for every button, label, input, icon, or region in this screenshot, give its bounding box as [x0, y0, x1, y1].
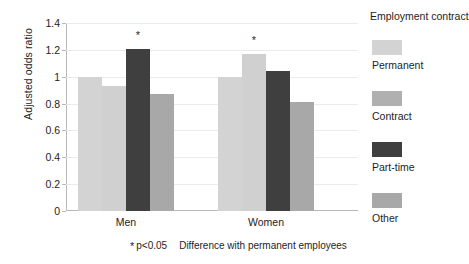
legend-label: Part-time: [372, 161, 469, 173]
bar-men-part-time: [126, 49, 150, 211]
legend-swatch-permanent: [372, 40, 402, 55]
footnote-asterisk-icon: *: [130, 240, 134, 252]
y-axis-line: [66, 23, 67, 211]
bar-women-permanent: [218, 77, 242, 211]
bar-women-other: [290, 102, 314, 211]
y-tick-mark: [62, 77, 66, 78]
gridline: [66, 77, 358, 78]
y-tick-label: 0.2: [30, 178, 60, 190]
legend-item-part-time: Part-time: [372, 142, 469, 173]
bar-men-contract: [102, 86, 126, 211]
footnote-p-value: p<0.05: [136, 240, 167, 251]
y-tick-mark: [62, 23, 66, 24]
y-tick-mark: [62, 157, 66, 158]
y-tick-label: 1: [30, 71, 60, 83]
y-tick-label: 0.6: [30, 124, 60, 136]
y-tick-mark: [62, 130, 66, 131]
x-axis-label-women: Women: [248, 216, 284, 228]
y-tick-label: 1.2: [30, 44, 60, 56]
footnote: *p<0.05Difference with permanent employe…: [130, 240, 347, 252]
legend-swatch-part-time: [372, 142, 402, 157]
legend-swatch-other: [372, 193, 402, 208]
legend-label: Other: [372, 212, 469, 224]
legend: Employment contract PermanentContractPar…: [372, 10, 469, 22]
y-tick-mark: [62, 211, 66, 212]
y-tick-label: 1.4: [30, 17, 60, 29]
legend-item-other: Other: [372, 193, 469, 224]
bar-women-part-time: [266, 71, 290, 211]
legend-label: Permanent: [372, 59, 469, 71]
y-tick-label: 0.4: [30, 151, 60, 163]
bar-men-permanent: [78, 77, 102, 211]
y-tick-mark: [62, 184, 66, 185]
gridline: [66, 23, 358, 24]
y-tick-mark: [62, 104, 66, 105]
significance-asterisk-icon: *: [252, 35, 256, 46]
legend-label: Contract: [372, 110, 469, 122]
legend-item-contract: Contract: [372, 91, 469, 122]
legend-swatch-contract: [372, 91, 402, 106]
legend-item-permanent: Permanent: [372, 40, 469, 71]
x-axis-label-men: Men: [116, 216, 136, 228]
y-tick-label: 0: [30, 205, 60, 217]
footnote-text: Difference with permanent employees: [179, 240, 347, 251]
gridline: [66, 50, 358, 51]
plot-area: 00.20.40.60.811.21.4 **: [66, 23, 358, 211]
chart-figure: Adjusted odds ratio 00.20.40.60.811.21.4…: [0, 0, 469, 264]
significance-asterisk-icon: *: [136, 30, 140, 41]
bar-women-contract: [242, 54, 266, 211]
y-tick-label: 0.8: [30, 98, 60, 110]
bar-men-other: [150, 94, 174, 211]
y-tick-mark: [62, 50, 66, 51]
legend-title: Employment contract: [370, 10, 469, 22]
